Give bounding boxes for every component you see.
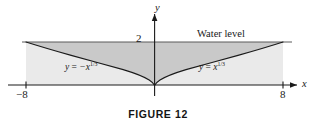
x-axis-label: x <box>302 79 307 90</box>
x-axis-arrowhead <box>290 82 297 88</box>
x-axis-tick-label-neg8: −8 <box>16 89 28 100</box>
equation-label-left: y = −x1/3 <box>65 63 97 73</box>
y-axis-label: y <box>155 3 160 14</box>
equation-left-base: −x <box>79 62 90 72</box>
equation-right-equals: = <box>203 62 213 72</box>
equation-left-equals: = <box>69 62 79 72</box>
y-axis-arrowhead <box>152 14 158 21</box>
equation-right-exponent: 1/3 <box>218 61 226 67</box>
y-axis-tick-label-2: 2 <box>136 33 142 44</box>
x-axis-tick-label-8: 8 <box>280 89 286 100</box>
water-level-label: Water level <box>197 29 245 40</box>
equation-label-right: y = x1/3 <box>199 63 225 73</box>
figure-caption: FIGURE 12 <box>0 108 316 120</box>
equation-left-exponent: 1/3 <box>90 61 98 67</box>
figure-container: Water level 2 y x −8 8 y = −x1/3 y = x1/… <box>0 0 316 128</box>
